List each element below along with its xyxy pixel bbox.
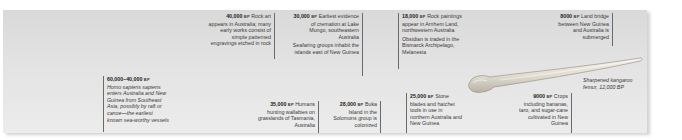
event-era: BP bbox=[574, 14, 580, 19]
event-era: BP bbox=[357, 102, 363, 107]
event-description: Earliest evidence of cremation at Lake M… bbox=[309, 13, 359, 40]
timeline-event-40000: 40,000 BP Rock art appears in Australia;… bbox=[206, 13, 275, 59]
event-text: 28,000 BP Buka Island in the Solomons gr… bbox=[330, 101, 377, 128]
caption-line-2: femur, 12,000 BP bbox=[583, 84, 624, 90]
timeline-event-35000: 35,000 BP Humans hunting wallabies on gr… bbox=[253, 101, 319, 133]
event-text: 8000 BP Land bridge between New Guinea a… bbox=[556, 13, 609, 40]
event-extra: Obsidian is traded in the Bismarck Archi… bbox=[402, 36, 466, 56]
event-extra: Seafaring groups inhabit the islands eas… bbox=[292, 42, 359, 55]
event-era: BP bbox=[144, 77, 150, 82]
event-era: BP bbox=[428, 94, 434, 99]
event-text: 35,000 BP Humans hunting wallabies on gr… bbox=[253, 101, 315, 128]
event-text: 40,000 BP Rock art appears in Australia;… bbox=[206, 13, 271, 47]
event-date: 8000 bbox=[560, 13, 572, 19]
event-description: Homo sapiens sapiens enters Australia an… bbox=[107, 84, 169, 123]
timeline-event-28000: 28,000 BP Buka Island in the Solomons gr… bbox=[330, 101, 381, 133]
timeline-event-25000: 25,000 BP Stone blades and hatchet tools… bbox=[406, 93, 462, 133]
timeline-event-18000: 18,000 BP Rock paintings appear in Arnhe… bbox=[398, 13, 466, 69]
event-date: 25,000 bbox=[410, 93, 426, 99]
event-date: 40,000 bbox=[226, 13, 242, 19]
event-era: BP bbox=[311, 14, 317, 19]
event-date: 28,000 bbox=[340, 101, 356, 107]
event-era: BP bbox=[288, 102, 294, 107]
event-text: 18,000 BP Rock paintings appear in Arnhe… bbox=[402, 13, 466, 34]
event-era: BP bbox=[244, 14, 250, 19]
event-date: 30,000 bbox=[294, 13, 310, 19]
timeline-event-8000: 8000 BP Land bridge between New Guinea a… bbox=[556, 13, 613, 46]
event-text: 25,000 BP Stone blades and hatchet tools… bbox=[410, 93, 462, 127]
timeline-event-30000: 30,000 BP Earliest evidence of cremation… bbox=[292, 13, 363, 76]
femur-caption: Sharpened kangaroo femur, 12,000 BP bbox=[583, 77, 632, 90]
event-text: 60,000–40,000 BP Homo sapiens sapiens en… bbox=[107, 76, 169, 123]
event-description: Humans hunting wallabies on grasslands o… bbox=[258, 101, 315, 128]
event-text: 30,000 BP Earliest evidence of cremation… bbox=[292, 13, 359, 40]
caption-line-1: Sharpened kangaroo bbox=[583, 77, 632, 83]
event-era: BP bbox=[420, 14, 426, 19]
event-date: 35,000 bbox=[270, 101, 286, 107]
timeline-event-60000: 60,000–40,000 BP Homo sapiens sapiens en… bbox=[103, 76, 169, 132]
event-date: 18,000 bbox=[402, 13, 418, 19]
event-date: 60,000–40,000 bbox=[107, 76, 142, 82]
